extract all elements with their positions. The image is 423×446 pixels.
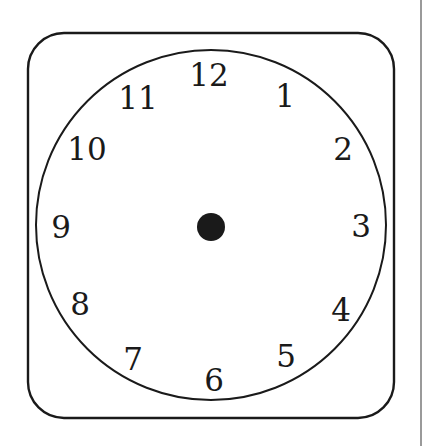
numeral-10: 10 xyxy=(67,131,106,167)
numeral-1: 1 xyxy=(275,78,295,114)
clock-face-diagram: 12 1 2 3 4 5 6 7 8 9 10 11 xyxy=(0,0,423,446)
numeral-5: 5 xyxy=(276,338,296,374)
numeral-3: 3 xyxy=(351,208,371,244)
numeral-8: 8 xyxy=(70,286,90,322)
page-edge-divider xyxy=(420,0,422,446)
numeral-7: 7 xyxy=(123,341,143,377)
numeral-12: 12 xyxy=(189,57,228,93)
numeral-6: 6 xyxy=(204,362,224,398)
numeral-2: 2 xyxy=(333,131,353,167)
clock-center-dot xyxy=(197,213,225,241)
numeral-9: 9 xyxy=(51,209,71,245)
numeral-4: 4 xyxy=(331,292,351,328)
numeral-11: 11 xyxy=(118,80,157,116)
